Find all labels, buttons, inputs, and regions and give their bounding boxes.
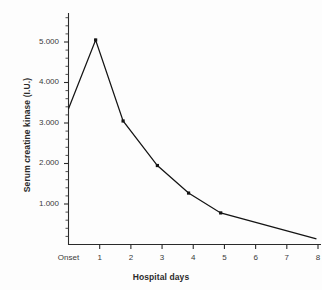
chart-figure: Serum creatine kinase (I.U.) Hospital da… [0,0,322,290]
data-point-marker [94,38,97,41]
data-point-marker [219,211,222,214]
data-point-marker [187,191,190,194]
axis-lines [69,13,322,245]
y-tick-label: 3.000 [15,118,59,127]
data-point-marker [121,119,124,122]
y-tick-label: 5.000 [15,37,59,46]
data-point-markers [94,38,222,214]
y-tick-label: 2.000 [15,158,59,167]
x-axis-title: Hospital days [0,272,322,282]
y-tick-label: 1.000 [15,199,59,208]
x-axis-major-ticks [100,245,318,250]
y-tick-label: 4.000 [15,77,59,86]
data-point-marker [156,164,159,167]
data-series-line [69,40,317,239]
y-axis-title: Serum creatine kinase (I.U.) [22,50,32,220]
x-tick-label: 8 [298,253,322,262]
